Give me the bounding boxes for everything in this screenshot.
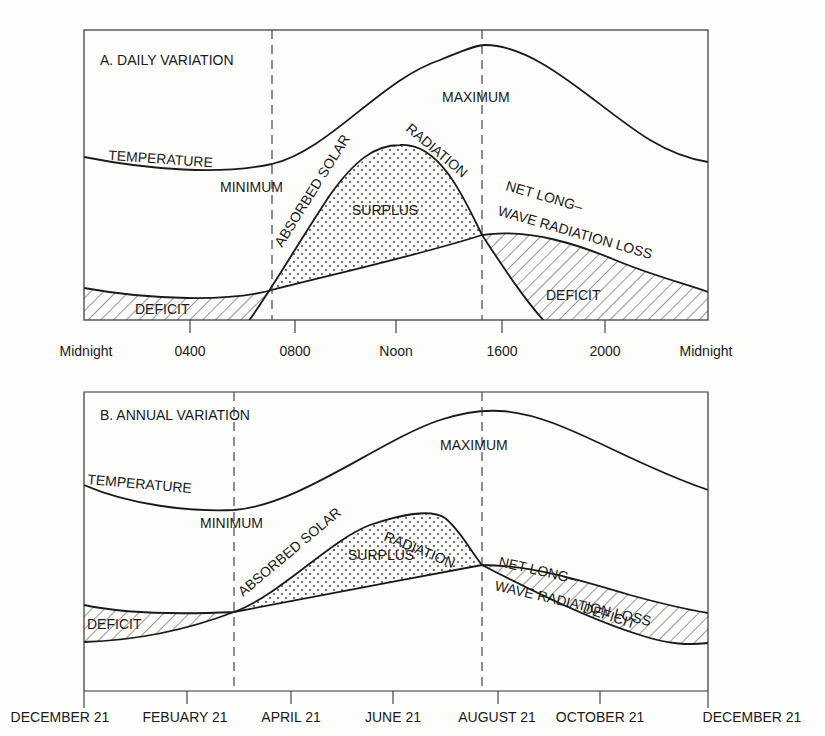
svg-text:0400: 0400 <box>174 343 205 359</box>
svg-text:JUNE 21: JUNE 21 <box>365 709 421 725</box>
maximum-label: MAXIMUM <box>440 437 508 453</box>
maximum-label: MAXIMUM <box>442 89 510 105</box>
svg-text:1600: 1600 <box>486 343 517 359</box>
panel-title: A. DAILY VARIATION <box>100 52 234 68</box>
x-axis-ticks <box>190 320 605 333</box>
x-axis-labels: DECEMBER 21 FEBUARY 21 APRIL 21 JUNE 21 … <box>11 709 802 725</box>
panel-annual-variation: B. ANNUAL VARIATION TEMPERATURE MAXIMUM … <box>11 392 802 725</box>
panel-title: B. ANNUAL VARIATION <box>100 407 250 423</box>
svg-text:DECEMBER 21: DECEMBER 21 <box>11 709 110 725</box>
panel-daily-variation: A. DAILY VARIATION TEMPERATURE MAXIMUM M… <box>60 30 733 359</box>
radiation-temperature-diagram: A. DAILY VARIATION TEMPERATURE MAXIMUM M… <box>0 0 825 736</box>
svg-text:Noon: Noon <box>379 343 412 359</box>
minimum-label: MINIMUM <box>220 179 283 195</box>
svg-text:FEBUARY 21: FEBUARY 21 <box>142 709 227 725</box>
surplus-label: SURPLUS <box>352 202 418 218</box>
x-axis-ticks <box>84 691 708 708</box>
x-axis-labels: Midnight 0400 0800 Noon 1600 2000 Midnig… <box>60 343 733 359</box>
svg-text:DECEMBER 21: DECEMBER 21 <box>703 709 802 725</box>
deficit-label-left: DEFICIT <box>135 301 190 317</box>
svg-text:AUGUST 21: AUGUST 21 <box>458 709 536 725</box>
deficit-label-right: DEFICIT <box>546 287 601 303</box>
minimum-label: MINIMUM <box>200 515 263 531</box>
deficit-area-right <box>482 233 708 322</box>
temperature-curve <box>84 411 708 511</box>
svg-text:Midnight: Midnight <box>60 343 113 359</box>
svg-text:2000: 2000 <box>589 343 620 359</box>
svg-text:APRIL 21: APRIL 21 <box>261 709 321 725</box>
svg-text:OCTOBER 21: OCTOBER 21 <box>556 709 645 725</box>
temperature-label: TEMPERATURE <box>108 147 214 170</box>
deficit-label-left: DEFICIT <box>87 616 142 632</box>
svg-text:0800: 0800 <box>279 343 310 359</box>
svg-text:Midnight: Midnight <box>680 343 733 359</box>
